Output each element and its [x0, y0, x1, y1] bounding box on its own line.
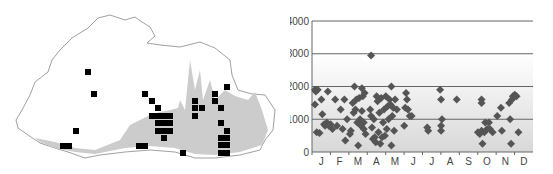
occurrence-square [218, 135, 224, 141]
y-tick-label: 4000 [290, 16, 309, 27]
x-tick-label: D [520, 156, 527, 167]
occurrence-square [212, 98, 218, 104]
occurrence-square [224, 142, 230, 148]
occurrence-square [224, 135, 230, 141]
occurrence-square [142, 91, 148, 97]
y-tick-label: 2000 [290, 81, 309, 92]
x-tick-label: O [483, 156, 491, 167]
x-tick-label: J [319, 156, 324, 167]
occurrence-square [218, 105, 224, 111]
occurrence-square [192, 105, 198, 111]
occurrence-square [155, 120, 161, 126]
occurrence-square [161, 135, 167, 141]
occurrence-square [192, 98, 198, 104]
occurrence-square [167, 113, 173, 119]
occurrence-square [199, 105, 205, 111]
occurrence-square [73, 128, 79, 134]
occurrence-square [212, 91, 218, 97]
occurrence-square [149, 98, 155, 104]
occurrence-square [142, 143, 148, 149]
occurrence-square [218, 142, 224, 148]
occurrence-square [192, 113, 198, 119]
x-axis-ticks: JFMAMJJASOND [312, 152, 527, 167]
occurrence-square [155, 105, 161, 111]
occurrence-square [155, 113, 161, 119]
occurrence-square [149, 113, 155, 119]
occurrence-square [224, 84, 230, 90]
occurrence-square [180, 150, 186, 156]
occurrence-square [161, 128, 167, 134]
occurrence-square [167, 128, 173, 134]
x-tick-label: S [465, 156, 472, 167]
y-tick-label: 1000 [290, 114, 309, 125]
occurrence-square [91, 91, 97, 97]
x-tick-label: F [337, 156, 343, 167]
x-tick-label: A [373, 156, 380, 167]
x-tick-label: A [447, 156, 454, 167]
occurrence-square [161, 120, 167, 126]
y-tick-label: 3000 [290, 48, 309, 59]
occurrence-square [155, 128, 161, 134]
x-tick-label: M [354, 156, 362, 167]
occurrence-square [66, 143, 72, 149]
occurrence-square [85, 69, 91, 75]
x-tick-label: J [411, 156, 416, 167]
x-tick-label: M [391, 156, 399, 167]
occurrence-square [60, 143, 66, 149]
y-tick-label: 0 [303, 147, 309, 158]
elevation-scatter-chart: 01000200030004000 JFMAMJJASOND [290, 0, 553, 174]
x-tick-label: J [429, 156, 434, 167]
occurrence-square [167, 120, 173, 126]
occurrence-square [161, 113, 167, 119]
y-axis-ticks: 01000200030004000 [290, 16, 309, 158]
occurrence-square [136, 143, 142, 149]
occurrence-square [224, 150, 230, 156]
distribution-map [0, 0, 290, 174]
occurrence-square [218, 150, 224, 156]
occurrence-square [218, 120, 224, 126]
x-tick-label: N [502, 156, 509, 167]
occurrence-square [224, 128, 230, 134]
